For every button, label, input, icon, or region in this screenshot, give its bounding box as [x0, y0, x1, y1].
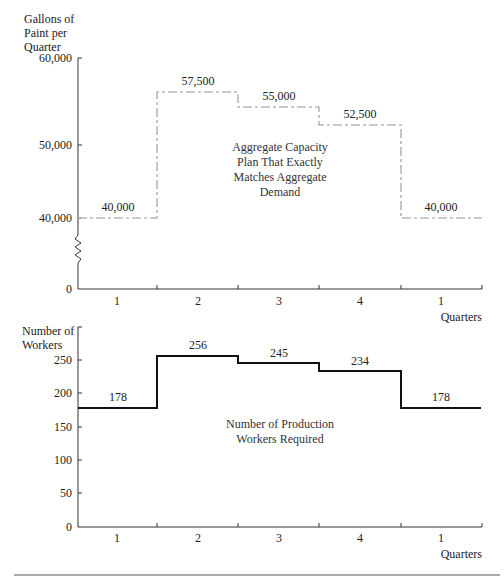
y-tick-200: 200	[54, 386, 72, 400]
value-label-q3: 245	[270, 346, 288, 360]
annotation-line-2: Workers Required	[236, 432, 323, 446]
value-label-q2: 57,500	[182, 74, 215, 88]
value-label-q1-next: 178	[432, 390, 450, 404]
y-tick-40000: 40,000	[39, 211, 72, 225]
x-axis-label: Quarters	[441, 547, 483, 561]
y-tick-50: 50	[60, 486, 72, 500]
y-axis-label-line-2: Workers	[22, 338, 63, 352]
y-tick-0: 0	[66, 282, 72, 296]
value-label-q4: 52,500	[344, 107, 377, 121]
workers-step-line	[78, 356, 481, 408]
value-label-q4: 234	[351, 354, 369, 368]
x-tick-q3: 3	[276, 531, 282, 545]
x-tick-q1-next: 1	[438, 531, 444, 545]
value-label-q3: 55,000	[263, 89, 296, 103]
capacity-chart: Gallons of Paint per Quarter 60,000 50,0…	[24, 12, 482, 324]
x-tick-q4: 4	[357, 531, 363, 545]
x-tick-q1-next: 1	[438, 294, 444, 308]
y-tick-250: 250	[54, 353, 72, 367]
value-label-q1-next: 40,000	[425, 200, 458, 214]
y-axis-label-line-2: Paint per	[24, 26, 67, 40]
figure: Gallons of Paint per Quarter 60,000 50,0…	[0, 0, 504, 584]
y-tick-150: 150	[54, 420, 72, 434]
x-tick-q1: 1	[114, 531, 120, 545]
value-label-q2: 256	[189, 338, 207, 352]
y-tick-60000: 60,000	[39, 51, 72, 65]
x-tick-q2: 2	[195, 531, 201, 545]
x-tick-q3: 3	[276, 294, 282, 308]
value-label-q1: 40,000	[102, 200, 135, 214]
y-tick-0: 0	[66, 520, 72, 534]
annotation-line-1: Number of Production	[226, 417, 334, 431]
annotation-line-1: Aggregate Capacity	[232, 140, 328, 154]
y-axis-label-line-1: Number of	[22, 324, 74, 338]
annotation-line-3: Matches Aggregate	[234, 170, 327, 184]
x-tick-q4: 4	[357, 294, 363, 308]
x-axis	[78, 523, 482, 527]
y-axis-label-line-1: Gallons of	[24, 12, 74, 26]
x-tick-q1: 1	[114, 294, 120, 308]
y-tick-50000: 50,000	[39, 138, 72, 152]
annotation-line-4: Demand	[260, 185, 301, 199]
axis-break-icon	[75, 235, 81, 263]
y-axis	[78, 327, 82, 527]
workers-chart: Number of Workers 250 200 150 100 50 0 1…	[22, 324, 482, 561]
y-axis	[75, 58, 82, 289]
x-axis	[78, 285, 482, 289]
annotation-line-2: Plan That Exactly	[237, 155, 323, 169]
value-label-q1: 178	[109, 390, 127, 404]
x-axis-label: Quarters	[441, 310, 483, 324]
y-tick-100: 100	[54, 453, 72, 467]
x-tick-q2: 2	[195, 294, 201, 308]
